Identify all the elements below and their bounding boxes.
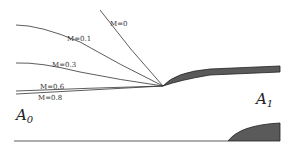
label-m08: M=0.8	[38, 94, 62, 102]
lower-body	[228, 123, 280, 141]
upper-body	[163, 66, 280, 86]
streamline-diagram: M=0 M=0.1 M=0.3 M=0.6 M=0.8 A0 A1	[0, 0, 294, 150]
region-a1-label: A1	[254, 90, 273, 109]
streamline-m03	[16, 63, 163, 86]
label-m0: M=0	[110, 20, 128, 28]
label-m01: M=0.1	[67, 35, 91, 43]
region-a0-label: A0	[14, 106, 34, 125]
label-m03: M=0.3	[52, 61, 76, 69]
label-m06: M=0.6	[40, 83, 65, 91]
